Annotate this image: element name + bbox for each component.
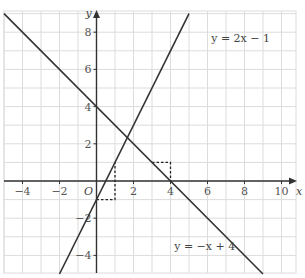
y-axis-label: y [84,7,92,20]
x-tick-label: 10 [275,185,289,198]
equation-labels: y = 2x − 1y = −x + 4 [173,32,270,253]
y-tick-label: 6 [85,63,92,76]
y-tick-label: 8 [85,26,92,39]
grid [4,11,296,273]
x-tick-label: 4 [167,185,174,198]
equation-label: y = 2x − 1 [210,32,270,45]
x-tick-label: 8 [241,185,248,198]
equation-label: y = −x + 4 [173,240,235,253]
x-axis-label: x [296,185,303,198]
tick-labels: −4−2246810−4−22468xyO [14,7,303,262]
line-chart: −4−2246810−4−22468xyO y = 2x − 1y = −x +… [0,0,305,278]
y-tick-label: −4 [75,249,91,262]
origin-label: O [84,185,93,198]
x-tick-label: −2 [51,185,67,198]
y-tick-label: 2 [85,138,92,151]
axes [4,10,297,273]
x-tick-label: 6 [204,185,211,198]
x-tick-label: 2 [130,185,137,198]
y-tick-label: 4 [85,101,92,114]
x-tick-label: −4 [14,185,30,198]
